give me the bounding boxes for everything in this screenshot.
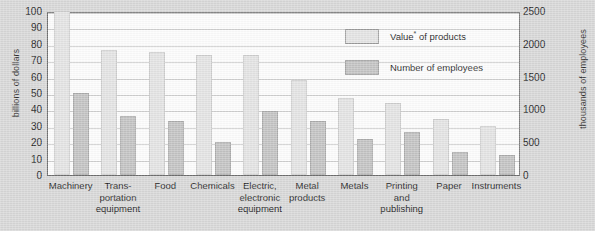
left-tick-20: 20 <box>31 138 42 148</box>
bar-value-0 <box>54 11 70 175</box>
bar-employees-6 <box>357 139 373 175</box>
bar-value-1 <box>101 50 117 175</box>
bar-employees-2 <box>168 121 184 175</box>
bar-value-9 <box>480 126 496 175</box>
bar-group <box>48 13 95 175</box>
left-tick-100: 100 <box>25 7 42 17</box>
bar-employees-9 <box>499 155 515 175</box>
left-tick-80: 80 <box>31 40 42 50</box>
category-axis-labels: MachineryTrans-portationequipmentFoodChe… <box>47 180 520 230</box>
left-tick-60: 60 <box>31 73 42 83</box>
legend-label-employees: Number of employees <box>390 62 483 73</box>
category-label-9: Instruments <box>464 180 529 192</box>
bar-employees-4 <box>262 111 278 175</box>
left-tick-50: 50 <box>31 89 42 99</box>
bar-group <box>285 13 332 175</box>
bar-value-5 <box>291 80 307 175</box>
left-tick-30: 30 <box>31 122 42 132</box>
right-tick-1000: 1000 <box>523 105 545 115</box>
right-tick-2500: 2500 <box>523 7 545 17</box>
value-swatch <box>345 29 379 44</box>
bar-value-6 <box>338 98 354 175</box>
bar-value-4 <box>243 55 259 175</box>
bar-value-3 <box>196 55 212 175</box>
bar-employees-1 <box>120 116 136 175</box>
bar-group <box>190 13 237 175</box>
employees-swatch <box>345 60 379 75</box>
left-axis-title: billions of dollars <box>11 35 21 131</box>
bar-group <box>143 13 190 175</box>
bar-group <box>237 13 284 175</box>
left-tick-90: 90 <box>31 23 42 33</box>
left-tick-40: 40 <box>31 105 42 115</box>
left-tick-70: 70 <box>31 56 42 66</box>
bar-group <box>95 13 142 175</box>
bar-employees-8 <box>452 152 468 175</box>
bar-employees-3 <box>215 142 231 175</box>
bar-chart: billions of dollars thousands of employe… <box>0 0 595 231</box>
bar-value-7 <box>385 103 401 175</box>
legend-label-value: Value* of products <box>390 30 466 42</box>
bar-employees-5 <box>310 121 326 175</box>
bar-employees-0 <box>73 93 89 175</box>
legend-item-employees: Number of employees <box>345 57 535 77</box>
chart-legend: Value* of products Number of employees <box>345 26 535 88</box>
bar-value-8 <box>433 119 449 175</box>
bar-value-2 <box>149 52 165 175</box>
right-tick-500: 500 <box>523 138 540 148</box>
right-axis-title: thousands of employees <box>578 27 588 131</box>
bar-employees-7 <box>404 132 420 175</box>
left-tick-10: 10 <box>31 155 42 165</box>
legend-item-value: Value* of products <box>345 26 535 46</box>
